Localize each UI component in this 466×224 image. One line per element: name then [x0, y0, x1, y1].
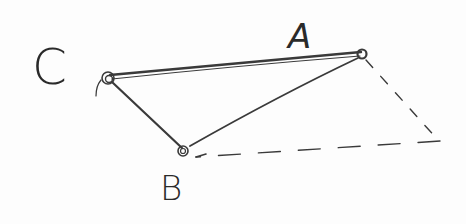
dashed-edge-a-d	[366, 60, 438, 140]
triangle-sketch	[0, 0, 466, 224]
point-b-marker	[178, 146, 188, 156]
label-a: A	[288, 16, 311, 56]
point-a-marker	[358, 50, 367, 59]
edge-b-a	[190, 58, 358, 146]
dashed-edge-d-b	[196, 141, 440, 157]
label-b: B	[160, 168, 182, 208]
edge-c-a	[110, 52, 361, 75]
edge-c-b	[112, 82, 182, 148]
label-c: C	[32, 38, 67, 96]
